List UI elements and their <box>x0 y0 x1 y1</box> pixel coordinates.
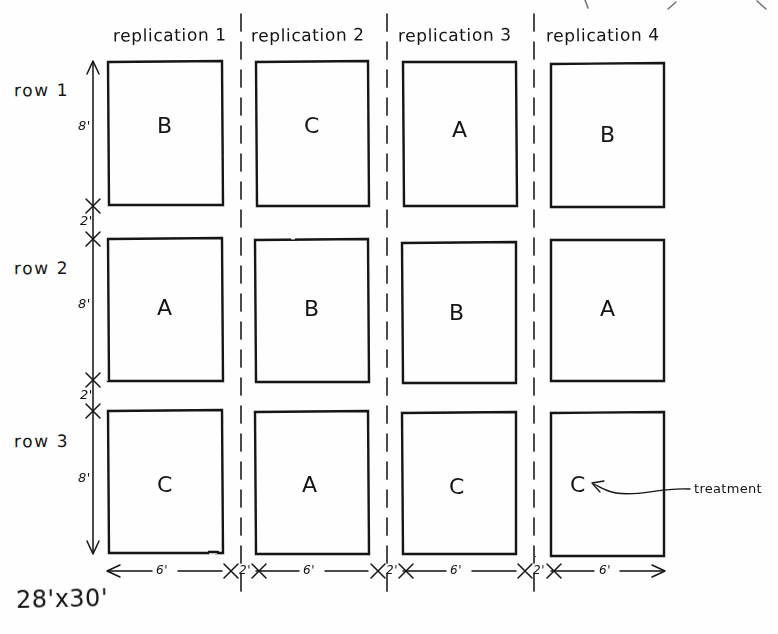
horizontal-dimension-gap-3: 2' <box>533 563 545 577</box>
column-header-replication-4: replication 4 <box>546 24 660 45</box>
treatment-letter-row2-rep1: A <box>157 295 172 320</box>
horizontal-dimension-gap-1: 2' <box>239 563 251 577</box>
horizontal-dimension-gap-2: 2' <box>386 563 398 577</box>
treatment-letter-row1-rep4: B <box>600 122 615 147</box>
overall-dimensions-label: 28'x30' <box>16 584 109 614</box>
treatment-letter-row1-rep2: C <box>304 113 319 138</box>
horizontal-dimension-plot-4: 6' <box>599 563 611 577</box>
column-header-replication-1: replication 1 <box>113 24 227 45</box>
treatment-letter-row2-rep2: B <box>304 296 319 321</box>
treatment-letter-row1-rep3: A <box>452 117 467 142</box>
clipped-top-marks <box>585 0 766 9</box>
horizontal-dimension-plot-2: 6' <box>303 563 315 577</box>
vertical-dimension-row3-height: 8' <box>78 470 91 485</box>
horizontal-dimension-plot-3: 6' <box>450 563 462 577</box>
vertical-dimension-gap-1: 2' <box>80 213 93 228</box>
treatment-callout-label: treatment <box>694 481 762 496</box>
row-header-row-3: row 3 <box>14 431 69 451</box>
treatment-callout-leader <box>592 481 690 494</box>
diagram-canvas: replication 1 replication 2 replication … <box>0 0 778 634</box>
row-header-row-1: row 1 <box>14 80 69 100</box>
column-header-replication-2: replication 2 <box>251 24 365 45</box>
treatment-letter-row2-rep3: B <box>449 300 464 325</box>
vertical-dimension-gap-2: 2' <box>80 387 93 402</box>
treatment-letter-row2-rep4: A <box>600 296 615 321</box>
treatment-letter-row3-rep4: C <box>570 472 585 497</box>
treatment-letter-row3-rep1: C <box>157 472 172 497</box>
plot-row3-rep4 <box>551 412 664 556</box>
column-header-replication-3: replication 3 <box>398 24 512 45</box>
treatment-letter-row3-rep2: A <box>302 472 317 497</box>
horizontal-dimension-plot-1: 6' <box>156 563 168 577</box>
row-header-row-2: row 2 <box>14 258 69 278</box>
vertical-dimension-row1-height: 8' <box>78 118 91 133</box>
vertical-dimension-row2-height: 8' <box>78 296 91 311</box>
sketch-linework <box>0 0 778 634</box>
treatment-letter-row1-rep1: B <box>157 113 172 138</box>
treatment-letter-row3-rep3: C <box>449 474 464 499</box>
